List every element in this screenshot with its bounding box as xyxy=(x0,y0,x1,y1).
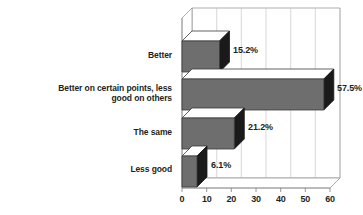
bar-front-face xyxy=(182,118,234,149)
bar-better-on-certain-points xyxy=(182,69,334,110)
bar-front-face xyxy=(182,41,220,72)
bar-less-good xyxy=(182,146,207,187)
x-tick-label-50: 50 xyxy=(295,194,315,204)
x-tick-label-40: 40 xyxy=(271,194,291,204)
category-label-better: Better xyxy=(60,50,172,60)
value-label-less-good: 6.1% xyxy=(211,160,231,170)
x-tick-label-10: 10 xyxy=(197,194,217,204)
chart-canvas xyxy=(0,0,363,215)
category-label-the-same: The same xyxy=(60,127,172,137)
bar-better xyxy=(182,31,230,72)
category-label-better-on-certain-points: Better on certain points, less good on o… xyxy=(8,83,172,103)
bar-top-face xyxy=(182,108,244,118)
bar-top-face xyxy=(182,69,334,79)
plot-floor xyxy=(182,178,340,188)
value-label-the-same: 21.2% xyxy=(248,122,273,132)
category-label-less-good: Less good xyxy=(60,164,172,174)
x-tick-label-60: 60 xyxy=(320,194,340,204)
value-label-better-on-certain-points: 57.5% xyxy=(337,83,362,93)
value-label-better: 15.2% xyxy=(233,45,258,55)
x-tick-label-30: 30 xyxy=(246,194,266,204)
bar-the-same xyxy=(182,108,244,149)
bar-chart: Better Better on certain points, less go… xyxy=(0,0,363,215)
bar-front-face xyxy=(182,79,324,110)
bar-front-face xyxy=(182,156,197,187)
x-tick-label-20: 20 xyxy=(221,194,241,204)
x-axis-ticks xyxy=(182,188,330,192)
x-tick-label-0: 0 xyxy=(172,194,192,204)
